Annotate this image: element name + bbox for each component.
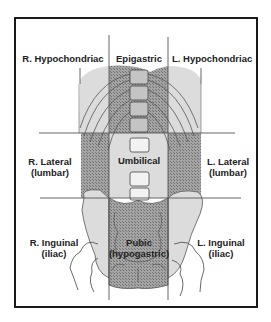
label-umbilical: Umbilical	[110, 155, 168, 166]
label-l-lateral: L. Lateral (lumbar)	[198, 156, 258, 178]
label-pubic: Pubic (hypogastric)	[106, 237, 172, 259]
abdominal-regions-diagram: R. Hypochondriac Epigastric L. Hypochond…	[0, 0, 271, 322]
label-r-inguinal: R. Inguinal (iliac)	[24, 237, 84, 259]
label-r-hypochondriac: R. Hypochondriac	[18, 53, 108, 64]
label-l-hypochondriac: L. Hypochondriac	[172, 53, 252, 64]
label-r-lateral: R. Lateral (lumbar)	[20, 156, 80, 178]
label-epigastric: Epigastric	[110, 53, 168, 64]
label-l-inguinal: L. Inguinal (iliac)	[191, 237, 251, 259]
